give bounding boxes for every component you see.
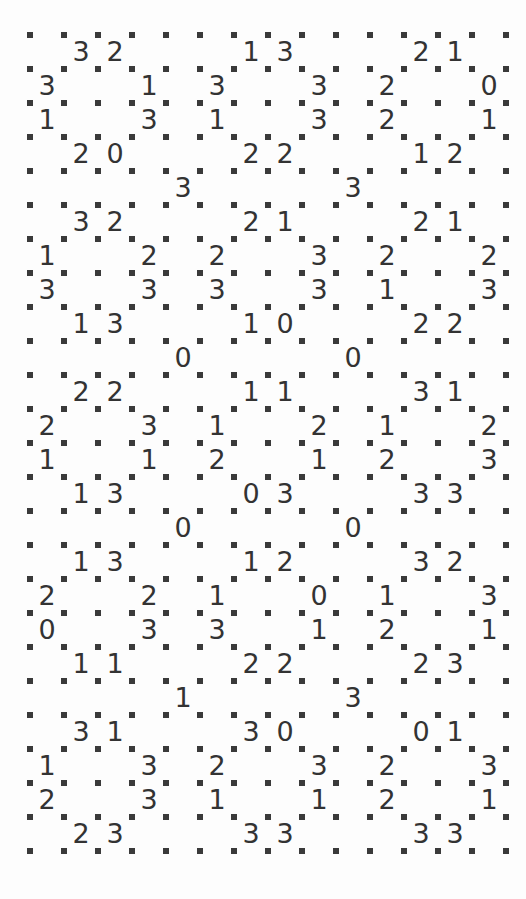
clue-cell[interactable]: 1 xyxy=(200,409,234,443)
clue-cell[interactable]: 1 xyxy=(438,715,472,749)
clue-cell[interactable]: 1 xyxy=(234,545,268,579)
clue-cell[interactable]: 3 xyxy=(30,69,64,103)
clue-cell[interactable]: 1 xyxy=(472,103,506,137)
clue-cell[interactable]: 3 xyxy=(472,749,506,783)
clue-cell[interactable]: 3 xyxy=(404,477,438,511)
clue-cell[interactable]: 2 xyxy=(370,613,404,647)
clue-cell[interactable]: 1 xyxy=(30,103,64,137)
clue-cell[interactable]: 1 xyxy=(302,783,336,817)
clue-cell[interactable]: 1 xyxy=(30,239,64,273)
clue-cell[interactable]: 3 xyxy=(336,681,370,715)
clue-cell[interactable]: 2 xyxy=(370,749,404,783)
clue-cell[interactable]: 3 xyxy=(336,171,370,205)
clue-cell[interactable]: 0 xyxy=(302,579,336,613)
clue-cell[interactable]: 1 xyxy=(302,443,336,477)
clue-cell[interactable]: 3 xyxy=(98,545,132,579)
clue-cell[interactable]: 1 xyxy=(64,307,98,341)
clue-cell[interactable]: 3 xyxy=(98,307,132,341)
clue-cell[interactable]: 3 xyxy=(132,613,166,647)
clue-cell[interactable]: 0 xyxy=(268,715,302,749)
clue-cell[interactable]: 3 xyxy=(98,817,132,851)
clue-cell[interactable]: 3 xyxy=(472,579,506,613)
clue-cell[interactable]: 2 xyxy=(302,409,336,443)
clue-cell[interactable]: 2 xyxy=(64,375,98,409)
clue-cell[interactable]: 1 xyxy=(472,613,506,647)
clue-cell[interactable]: 3 xyxy=(200,69,234,103)
clue-cell[interactable]: 3 xyxy=(132,103,166,137)
clue-cell[interactable]: 1 xyxy=(64,545,98,579)
clue-cell[interactable]: 2 xyxy=(132,579,166,613)
clue-cell[interactable]: 2 xyxy=(200,749,234,783)
clue-cell[interactable]: 1 xyxy=(234,35,268,69)
clue-cell[interactable]: 3 xyxy=(64,35,98,69)
clue-cell[interactable]: 3 xyxy=(268,817,302,851)
clue-cell[interactable]: 3 xyxy=(132,749,166,783)
clue-cell[interactable]: 3 xyxy=(438,647,472,681)
clue-cell[interactable]: 2 xyxy=(98,35,132,69)
clue-cell[interactable]: 2 xyxy=(438,137,472,171)
clue-cell[interactable]: 1 xyxy=(302,613,336,647)
clue-cell[interactable]: 2 xyxy=(438,307,472,341)
clue-cell[interactable]: 3 xyxy=(302,749,336,783)
clue-cell[interactable]: 3 xyxy=(404,545,438,579)
clue-cell[interactable]: 3 xyxy=(200,613,234,647)
clue-cell[interactable]: 1 xyxy=(166,681,200,715)
clue-cell[interactable]: 1 xyxy=(30,749,64,783)
clue-cell[interactable]: 1 xyxy=(268,375,302,409)
clue-cell[interactable]: 2 xyxy=(234,205,268,239)
clue-cell[interactable]: 0 xyxy=(234,477,268,511)
clue-cell[interactable]: 1 xyxy=(234,307,268,341)
clue-cell[interactable]: 2 xyxy=(472,239,506,273)
clue-cell[interactable]: 2 xyxy=(370,239,404,273)
clue-cell[interactable]: 3 xyxy=(472,443,506,477)
clue-cell[interactable]: 1 xyxy=(132,69,166,103)
clue-cell[interactable]: 0 xyxy=(98,137,132,171)
clue-cell[interactable]: 2 xyxy=(132,239,166,273)
clue-cell[interactable]: 3 xyxy=(64,205,98,239)
clue-cell[interactable]: 1 xyxy=(98,647,132,681)
clue-cell[interactable]: 0 xyxy=(166,341,200,375)
clue-cell[interactable]: 3 xyxy=(166,171,200,205)
clue-cell[interactable]: 2 xyxy=(200,443,234,477)
clue-cell[interactable]: 1 xyxy=(98,715,132,749)
clue-cell[interactable]: 2 xyxy=(64,137,98,171)
clue-cell[interactable]: 3 xyxy=(302,239,336,273)
clue-cell[interactable]: 2 xyxy=(370,69,404,103)
clue-cell[interactable]: 2 xyxy=(370,443,404,477)
clue-cell[interactable]: 3 xyxy=(302,103,336,137)
clue-cell[interactable]: 2 xyxy=(472,409,506,443)
clue-cell[interactable]: 1 xyxy=(268,205,302,239)
clue-cell[interactable]: 1 xyxy=(438,35,472,69)
clue-cell[interactable]: 2 xyxy=(268,137,302,171)
clue-cell[interactable]: 2 xyxy=(30,579,64,613)
clue-cell[interactable]: 2 xyxy=(98,375,132,409)
clue-cell[interactable]: 3 xyxy=(268,35,302,69)
clue-cell[interactable]: 0 xyxy=(404,715,438,749)
clue-cell[interactable]: 2 xyxy=(30,409,64,443)
clue-cell[interactable]: 3 xyxy=(302,273,336,307)
clue-cell[interactable]: 2 xyxy=(200,239,234,273)
clue-cell[interactable]: 0 xyxy=(30,613,64,647)
clue-cell[interactable]: 3 xyxy=(98,477,132,511)
clue-cell[interactable]: 0 xyxy=(336,341,370,375)
clue-cell[interactable]: 3 xyxy=(268,477,302,511)
clue-cell[interactable]: 2 xyxy=(64,817,98,851)
clue-cell[interactable]: 0 xyxy=(268,307,302,341)
clue-cell[interactable]: 1 xyxy=(64,647,98,681)
clue-cell[interactable]: 3 xyxy=(132,273,166,307)
clue-cell[interactable]: 3 xyxy=(132,409,166,443)
clue-cell[interactable]: 1 xyxy=(30,443,64,477)
clue-cell[interactable]: 0 xyxy=(472,69,506,103)
clue-cell[interactable]: 3 xyxy=(200,273,234,307)
clue-cell[interactable]: 1 xyxy=(132,443,166,477)
clue-cell[interactable]: 1 xyxy=(438,205,472,239)
clue-cell[interactable]: 1 xyxy=(200,103,234,137)
clue-cell[interactable]: 1 xyxy=(234,375,268,409)
clue-cell[interactable]: 2 xyxy=(234,137,268,171)
clue-cell[interactable]: 2 xyxy=(234,647,268,681)
clue-cell[interactable]: 1 xyxy=(370,409,404,443)
clue-cell[interactable]: 1 xyxy=(404,137,438,171)
clue-cell[interactable]: 1 xyxy=(370,273,404,307)
clue-cell[interactable]: 3 xyxy=(472,273,506,307)
clue-cell[interactable]: 3 xyxy=(234,715,268,749)
